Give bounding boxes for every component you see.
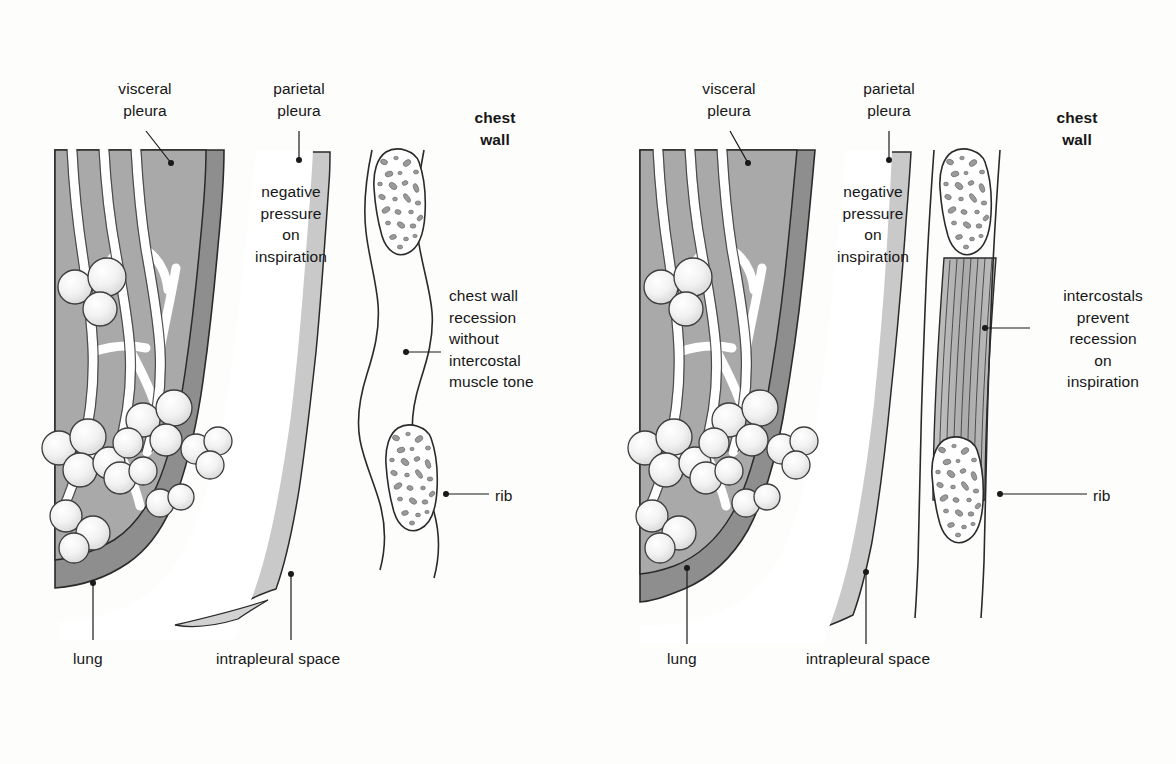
- right-rib-lower: [932, 437, 983, 543]
- label-visceral-pleura-left: visceral pleura: [95, 78, 195, 121]
- label-parietal-pleura-left: parietal pleura: [249, 78, 349, 121]
- label-intercostals-prevent-recession: intercostals prevent recession on inspir…: [1038, 285, 1168, 393]
- label-intrapleural-space-right: intrapleural space: [806, 648, 986, 670]
- label-lung-right: lung: [667, 648, 727, 670]
- left-rib-upper: [374, 149, 425, 255]
- label-lung-left: lung: [73, 648, 133, 670]
- label-intrapleural-space-left: intrapleural space: [216, 648, 396, 670]
- label-parietal-pleura-right: parietal pleura: [839, 78, 939, 121]
- left-rib-lower: [386, 425, 437, 531]
- figure-root: visceral pleura parietal pleura chest wa…: [0, 0, 1176, 764]
- label-rib-left: rib: [495, 485, 545, 507]
- label-chest-wall-left: chest wall: [455, 107, 535, 150]
- label-rib-right: rib: [1093, 485, 1143, 507]
- right-rib-upper: [940, 149, 991, 255]
- label-chest-wall-recession: chest wall recession without intercostal…: [449, 285, 589, 393]
- label-negative-pressure-right: negative pressure on inspiration: [813, 181, 933, 267]
- label-visceral-pleura-right: visceral pleura: [679, 78, 779, 121]
- label-negative-pressure-left: negative pressure on inspiration: [231, 181, 351, 267]
- label-chest-wall-right: chest wall: [1037, 107, 1117, 150]
